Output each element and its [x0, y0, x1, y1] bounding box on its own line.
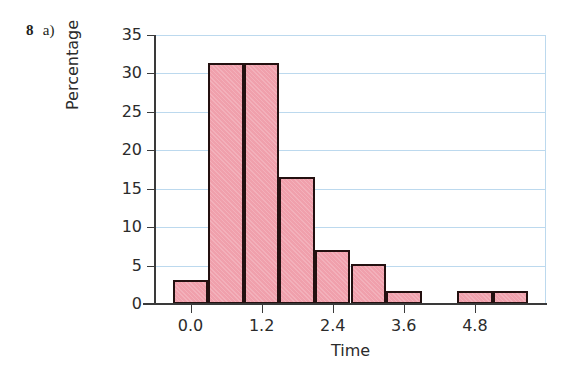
histogram-bar [351, 264, 387, 304]
y-axis-tick-label: 35 [108, 25, 142, 44]
x-axis-tick [262, 305, 263, 313]
y-axis-tick [147, 304, 155, 305]
y-axis-tick-label: 10 [108, 217, 142, 236]
y-axis-tick-label: 30 [108, 63, 142, 82]
x-axis-tick [191, 305, 192, 313]
y-axis-tick-label: 0 [108, 294, 142, 313]
x-axis-tick-label: 1.2 [232, 316, 292, 335]
histogram-figure: 05101520253035 0.01.22.43.64.8 Percentag… [0, 0, 578, 387]
y-axis-tick [147, 189, 155, 190]
y-axis-tick [147, 73, 155, 74]
x-axis-line [143, 303, 547, 305]
histogram-bar [244, 63, 280, 304]
x-axis-tick-label: 0.0 [161, 316, 221, 335]
y-axis-tick [147, 35, 155, 36]
histogram-bar [173, 280, 209, 304]
y-axis-tick-label: 15 [108, 179, 142, 198]
x-axis-tick-label: 4.8 [445, 316, 505, 335]
y-axis-tick [147, 112, 155, 113]
y-axis-tick [147, 227, 155, 228]
histogram-bar [279, 177, 315, 304]
gridline [155, 35, 546, 36]
y-axis-tick-label: 5 [108, 256, 142, 275]
histogram-bar [208, 63, 244, 304]
y-axis-line [154, 35, 156, 305]
x-axis-tick [404, 305, 405, 313]
x-axis-title: Time [155, 341, 546, 360]
plot-frame-right-edge [545, 35, 546, 304]
x-axis-tick-label: 3.6 [374, 316, 434, 335]
histogram-bar [315, 250, 351, 304]
y-axis-tick [147, 266, 155, 267]
y-axis-title: Percentage [63, 0, 82, 110]
x-axis-tick [333, 305, 334, 313]
plot-area [155, 35, 546, 304]
y-axis-tick-label: 20 [108, 140, 142, 159]
y-axis-tick-label: 25 [108, 102, 142, 121]
y-axis-tick [147, 150, 155, 151]
x-axis-tick-label: 2.4 [303, 316, 363, 335]
x-axis-tick [475, 305, 476, 313]
